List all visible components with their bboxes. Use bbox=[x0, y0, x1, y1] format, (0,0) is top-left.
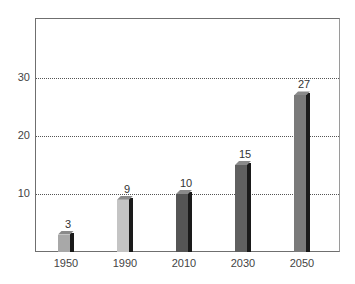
y-tick-10: 10 bbox=[8, 187, 30, 199]
bar-side bbox=[247, 163, 251, 252]
bar-side bbox=[129, 198, 133, 252]
bar-face bbox=[58, 235, 70, 252]
bar-face bbox=[117, 200, 129, 252]
value-label-1990: 9 bbox=[112, 183, 142, 195]
bar-face bbox=[235, 165, 247, 252]
bar-side bbox=[70, 233, 74, 252]
bar-1990 bbox=[117, 196, 133, 252]
x-tick-2050: 2050 bbox=[282, 257, 322, 269]
y-tick-20: 20 bbox=[8, 129, 30, 141]
x-tick-1950: 1950 bbox=[46, 257, 86, 269]
bar-2030 bbox=[235, 161, 251, 252]
bar-2050 bbox=[294, 91, 310, 252]
value-label-2030: 15 bbox=[230, 148, 260, 160]
bar-side bbox=[188, 192, 192, 252]
bar-side bbox=[306, 93, 310, 252]
y-tick-30: 30 bbox=[8, 71, 30, 83]
bar-face bbox=[294, 95, 306, 252]
value-label-2050: 27 bbox=[289, 78, 319, 90]
value-label-1950: 3 bbox=[53, 218, 83, 230]
bar-1950 bbox=[58, 231, 74, 252]
value-label-2010: 10 bbox=[171, 177, 201, 189]
bar-face bbox=[176, 194, 188, 252]
bar-2010 bbox=[176, 190, 192, 252]
x-tick-2010: 2010 bbox=[164, 257, 204, 269]
x-tick-2030: 2030 bbox=[223, 257, 263, 269]
x-tick-1990: 1990 bbox=[105, 257, 145, 269]
